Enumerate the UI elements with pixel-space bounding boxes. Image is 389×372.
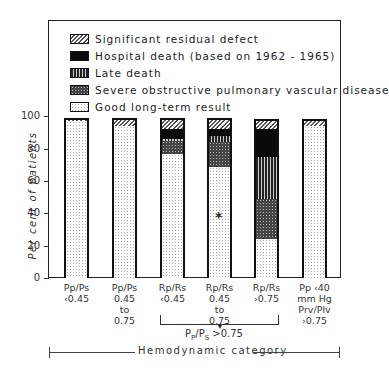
legend-item-good-result: Good long-term result [70,98,389,115]
bar-4 [207,118,232,278]
category-axis-label: Hemodynamic category [138,345,288,356]
segment-sopvd [209,142,230,166]
bar-6 [302,119,327,278]
legend-item-late-death: Late death [70,64,389,81]
segment-late [256,157,277,199]
y-tick-mark [44,149,49,150]
legend-label: Hospital death (based on 1962 - 1965) [95,50,335,62]
good-result-swatch-icon [70,102,89,112]
y-tick-mark [44,213,49,214]
segment-hospital [162,129,183,139]
legend-label: Severe obstructive pulmonary vascular di… [95,84,389,96]
legend-item-hospital-death: Hospital death (based on 1962 - 1965) [70,47,389,64]
legend: Significant residual defect Hospital dea… [70,30,389,115]
segment-good [304,126,325,278]
segment-sopvd [256,199,277,240]
bar-2 [112,118,137,278]
bar-1 [64,118,89,278]
late-death-swatch-icon [70,68,89,78]
y-tick-mark [44,278,49,279]
segment-good [162,154,183,278]
y-tick-label: 100 [0,110,40,121]
bar-5 [254,119,279,278]
bracket-label: PP/PS >0.75 [185,328,243,342]
segment-good [256,239,277,278]
category-axis-end [339,347,340,358]
segment-hospital [256,129,277,157]
segment-residual [209,120,230,130]
bracket-rp-rs-group [160,315,279,325]
y-tick-mark [44,246,49,247]
sopvd-swatch-icon [70,85,89,95]
segment-residual [256,121,277,129]
legend-label: Good long-term result [95,101,231,113]
legend-label: Late death [95,67,162,79]
segment-good [66,121,87,278]
residual-defect-swatch-icon [70,34,89,44]
category-axis-line [49,352,135,353]
segment-residual [162,120,183,130]
legend-item-residual: Significant residual defect [70,30,389,47]
x-tick-label: Pp ‹40mm HgPrv/Plv›0.75 [285,282,345,326]
category-axis-line [253,352,339,353]
y-tick-mark [44,181,49,182]
asterisk-annotation: * [215,209,222,225]
segment-sopvd [162,141,183,154]
segment-good [114,126,135,278]
bar-3 [160,118,185,278]
legend-item-sopvd: Severe obstructive pulmonary vascular di… [70,81,389,98]
y-axis-label: Per cent of patients [27,126,38,266]
y-tick-label: 0 [0,272,40,283]
legend-label: Significant residual defect [95,33,259,45]
y-tick-mark [44,116,49,117]
hospital-death-swatch-icon [70,51,89,61]
